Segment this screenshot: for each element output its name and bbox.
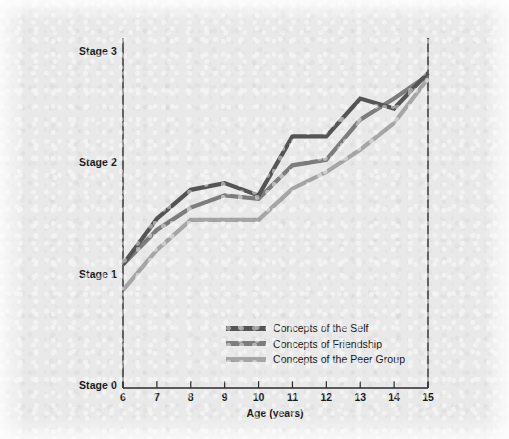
legend-label: Concepts of the Self (273, 322, 369, 334)
y-tick-label-stage-3: Stage 3 (55, 45, 117, 57)
x-axis-title: Age (years) (215, 407, 335, 419)
y-tick-label-stage-2: Stage 2 (55, 156, 117, 168)
legend-color-swatch (226, 326, 266, 331)
legend-label: Concepts of Friendship (273, 338, 382, 350)
legend-color-swatch (226, 357, 266, 362)
figure-canvas: Stage 3 Stage 2 Stage 1 Stage 0 67891011… (0, 0, 509, 439)
legend-item: Concepts of the Self (226, 321, 369, 335)
legend-color-swatch (226, 341, 266, 346)
line-chart-plot (0, 0, 509, 439)
legend-label: Concepts of the Peer Group (273, 353, 405, 365)
legend-item: Concepts of Friendship (226, 337, 382, 351)
series-line-concepts-of-the-self (123, 73, 428, 264)
data-series-group (123, 73, 428, 290)
x-tick-label-15: 15 (408, 391, 448, 403)
legend-item: Concepts of the Peer Group (226, 352, 405, 366)
x-axis-tick-marks (123, 381, 428, 388)
y-tick-label-stage-1: Stage 1 (55, 268, 117, 280)
y-tick-label-stage-0: Stage 0 (55, 379, 117, 391)
